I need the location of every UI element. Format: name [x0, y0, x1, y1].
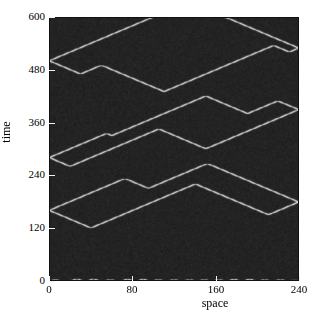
spacetime-plot-area	[49, 17, 299, 281]
x-tick-label: 240	[279, 284, 316, 295]
x-axis-label: space	[0, 297, 316, 309]
y-tick-label: 600	[3, 11, 45, 22]
y-tick-mark	[49, 281, 55, 282]
y-tick-label: 240	[3, 169, 45, 180]
x-tick-label: 80	[112, 284, 152, 295]
x-axis-label-text: space	[202, 296, 229, 310]
y-axis-label: time	[0, 121, 12, 142]
x-tick-mark	[299, 276, 300, 281]
x-tick-label: 160	[196, 284, 236, 295]
spacetime-figure: 0120240360480600 080160240 time space	[0, 0, 316, 322]
y-tick-label: 120	[3, 222, 45, 233]
spacetime-heatmap	[49, 17, 299, 281]
x-tick-label: 0	[29, 284, 69, 295]
y-tick-label: 480	[3, 64, 45, 75]
